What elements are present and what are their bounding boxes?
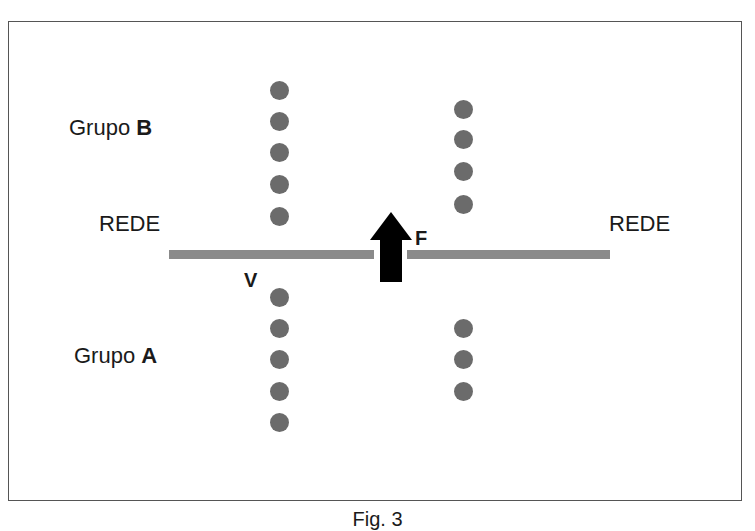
net-left-segment [169,250,374,259]
particle-dot [454,350,473,369]
group-b-label: Grupo B [69,117,152,139]
particle-dot [454,130,473,149]
particle-dot [454,382,473,401]
net-right-segment [407,250,610,259]
particle-dot [454,100,473,119]
particle-dot [454,162,473,181]
group-a-label: Grupo A [74,345,157,367]
particle-dot [270,143,289,162]
particle-dot [270,112,289,131]
particle-dot [270,207,289,226]
particle-dot [270,319,289,338]
v-label: V [244,270,257,290]
net-left-label: REDE [99,213,160,235]
particle-dot [270,382,289,401]
net-right-label: REDE [609,213,670,235]
particle-dot [454,195,473,214]
particle-dot [270,288,289,307]
force-label: F [415,228,427,248]
particle-dot [270,350,289,369]
particle-dot [270,175,289,194]
force-arrow-icon [368,210,414,284]
particle-dot [454,319,473,338]
particle-dot [270,413,289,432]
figure-caption: Fig. 3 [0,508,755,531]
particle-dot [270,81,289,100]
